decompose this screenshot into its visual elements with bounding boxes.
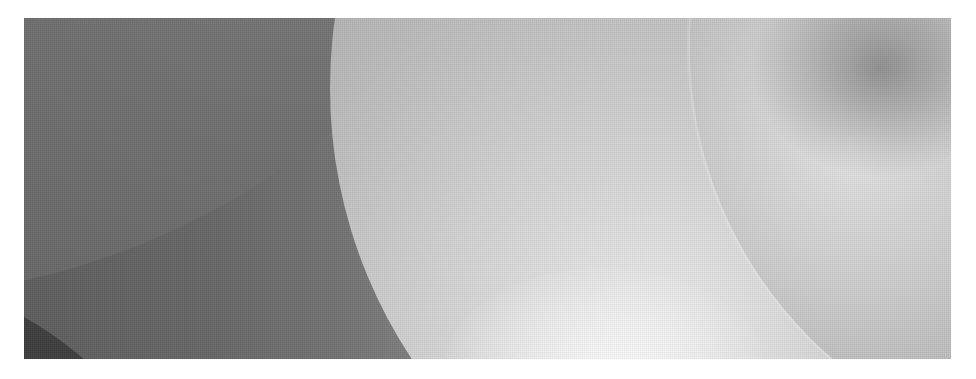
grain-texture (24, 18, 951, 359)
abstract-photo (24, 18, 951, 359)
